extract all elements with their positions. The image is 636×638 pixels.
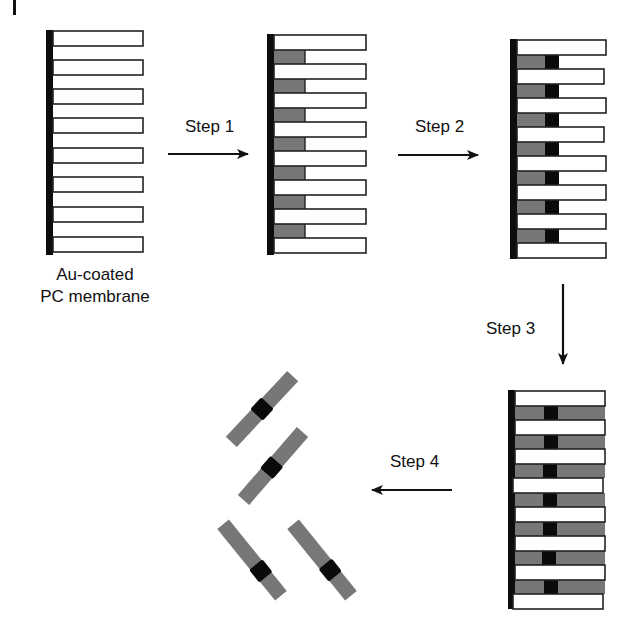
- gold-backing-layer: [510, 39, 517, 259]
- membrane-caption: Au-coated PC membrane: [30, 264, 160, 308]
- membrane-stage-3: [510, 39, 606, 259]
- membrane-stage-4: [508, 390, 605, 609]
- gold-backing-layer: [267, 34, 274, 255]
- empty-pores: [53, 31, 143, 252]
- nanorod-1: [225, 370, 299, 447]
- nanorod-4: [286, 519, 357, 601]
- caption-line-1: Au-coated: [30, 264, 160, 286]
- membrane-stage-1: [46, 30, 143, 255]
- nanorod-3: [216, 519, 287, 601]
- step-4-label: Step 4: [390, 453, 439, 470]
- caption-line-2: PC membrane: [30, 286, 160, 308]
- nanorod-2: [237, 426, 309, 505]
- fabrication-diagram: Step 1 Step 2 Step 3 Step 4 Au-coated PC…: [0, 0, 636, 638]
- gold-backing-layer: [46, 30, 53, 255]
- step-3-label: Step 3: [486, 320, 535, 337]
- step-2-label: Step 2: [415, 118, 464, 135]
- membrane-stage-2: [267, 34, 366, 255]
- nanorods: [216, 370, 357, 601]
- step-1-label: Step 1: [185, 118, 234, 135]
- gold-backing-layer: [508, 390, 515, 609]
